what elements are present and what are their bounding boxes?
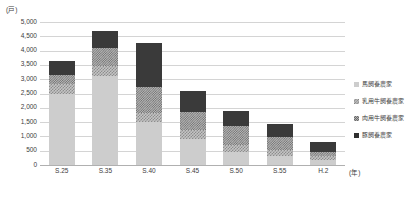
legend-item[interactable]: 馬飼養農家 — [354, 80, 418, 88]
legend-label: 肉用牛飼養農家 — [362, 115, 404, 121]
legend-item[interactable]: 肉用牛飼養農家 — [354, 114, 418, 122]
y-axis-tick-label: 4,500 — [21, 33, 37, 40]
legend-label: 乳用牛飼養農家 — [362, 98, 404, 104]
bar-segment-beef[interactable] — [92, 48, 118, 67]
legend-swatch-horse — [354, 82, 359, 87]
legend-label: 馬飼養農家 — [362, 81, 392, 87]
x-axis-tick-label: H.2 — [303, 167, 343, 174]
y-axis-tick-label: 5,000 — [21, 19, 37, 26]
bar-segment-pig[interactable] — [180, 91, 206, 112]
y-axis-tick-label: 1,500 — [21, 119, 37, 126]
x-axis-tick-label: S.35 — [85, 167, 125, 174]
stacked-bar-chart: (戸) 05001,0001,5002,0002,5003,0003,5004,… — [0, 0, 420, 199]
chart-legend: 馬飼養農家乳用牛飼養農家肉用牛飼養農家豚飼養農家 — [354, 80, 418, 148]
x-axis-labels: S.25S.35S.40S.45S.50S.55H.2 — [40, 167, 345, 181]
x-axis-tick-label: S.45 — [173, 167, 213, 174]
bar-stack[interactable] — [267, 124, 293, 165]
x-axis-tick-label: S.40 — [129, 167, 169, 174]
legend-item[interactable]: 乳用牛飼養農家 — [354, 97, 418, 105]
bar-segment-dairy[interactable] — [49, 84, 75, 93]
y-axis-tick-label: 3,000 — [21, 76, 37, 83]
x-axis-tick-label: S.55 — [260, 167, 300, 174]
x-axis-tick-label: S.50 — [216, 167, 256, 174]
bar-segment-horse[interactable] — [310, 160, 336, 165]
x-axis-unit-label: (年) — [349, 167, 360, 177]
legend-item[interactable]: 豚飼養農家 — [354, 131, 418, 139]
bar-stack[interactable] — [310, 142, 336, 165]
bar-segment-pig[interactable] — [49, 61, 75, 76]
bar-segment-horse[interactable] — [267, 156, 293, 165]
y-axis-unit-label: (戸) — [6, 4, 17, 14]
bar-segment-beef[interactable] — [49, 75, 75, 84]
bar-segment-horse[interactable] — [49, 94, 75, 166]
bar-segment-horse[interactable] — [136, 122, 162, 165]
plot-area — [40, 22, 345, 165]
bar-segment-pig[interactable] — [223, 111, 249, 127]
bar-segment-dairy[interactable] — [180, 130, 206, 139]
bar-segment-horse[interactable] — [223, 152, 249, 165]
bar-series-container — [40, 22, 345, 165]
legend-label: 豚飼養農家 — [362, 132, 392, 138]
bar-segment-horse[interactable] — [92, 76, 118, 165]
bar-stack[interactable] — [180, 91, 206, 165]
gridline — [40, 165, 345, 166]
y-axis-tick-label: 500 — [26, 147, 37, 154]
bar-segment-dairy[interactable] — [92, 66, 118, 76]
bar-segment-beef[interactable] — [180, 112, 206, 130]
y-axis-tick-label: 3,500 — [21, 61, 37, 68]
bar-segment-beef[interactable] — [136, 87, 162, 113]
y-axis-tick-label: 2,000 — [21, 104, 37, 111]
bar-segment-pig[interactable] — [310, 142, 336, 152]
bar-segment-dairy[interactable] — [223, 145, 249, 152]
bar-stack[interactable] — [136, 43, 162, 165]
bar-stack[interactable] — [92, 31, 118, 165]
y-axis-tick-label: 4,000 — [21, 47, 37, 54]
x-axis-tick-label: S.25 — [42, 167, 82, 174]
y-axis-tick-label: 2,500 — [21, 90, 37, 97]
bar-stack[interactable] — [49, 61, 75, 165]
bar-segment-horse[interactable] — [180, 139, 206, 165]
legend-swatch-dairy — [354, 99, 359, 104]
y-axis-tick-label: 1,000 — [21, 133, 37, 140]
bar-segment-dairy[interactable] — [267, 150, 293, 157]
y-axis-tick-label: 0 — [33, 162, 37, 169]
bar-segment-pig[interactable] — [267, 124, 293, 137]
legend-swatch-pig — [354, 133, 359, 138]
bar-segment-beef[interactable] — [267, 137, 293, 150]
y-axis-ticks: 05001,0001,5002,0002,5003,0003,5004,0004… — [0, 22, 37, 165]
bar-stack[interactable] — [223, 111, 249, 165]
bar-segment-pig[interactable] — [92, 31, 118, 48]
bar-segment-dairy[interactable] — [136, 113, 162, 122]
bar-segment-beef[interactable] — [223, 126, 249, 144]
bar-segment-pig[interactable] — [136, 43, 162, 87]
legend-swatch-beef — [354, 116, 359, 121]
